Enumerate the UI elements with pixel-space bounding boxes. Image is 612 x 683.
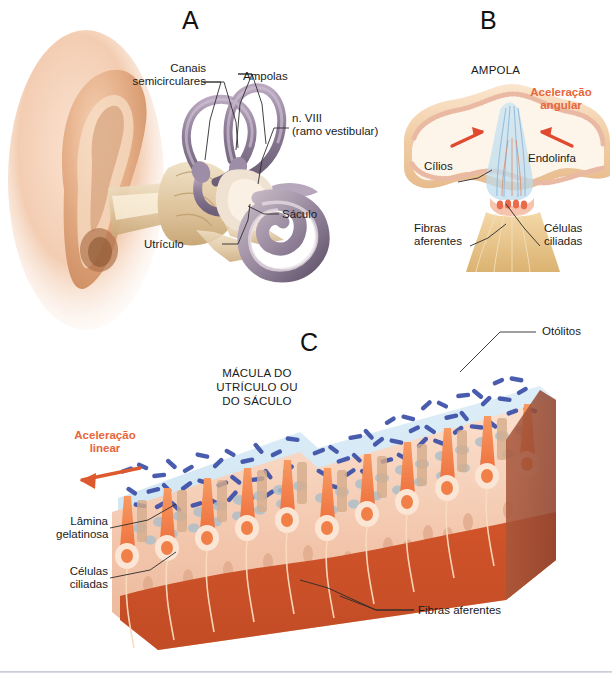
label-fibras-aferentes-c: Fibras aferentes (418, 604, 501, 617)
label-celulas-ciliadas-b: Células ciliadas (544, 222, 582, 248)
label-nervo-viii: n. VIII (ramo vestibular) (292, 112, 378, 138)
figure-canvas: A B C Canais semicirculares Ampolas n. V… (0, 0, 612, 683)
label-saculo: Sáculo (282, 208, 317, 221)
label-canais-semicirculares: Canais semicirculares (124, 62, 206, 88)
label-ampolas: Ampolas (243, 70, 288, 83)
label-otolitos: Otólitos (542, 325, 581, 338)
label-aceleracao-angular: Aceleração angular (522, 86, 600, 112)
label-aceleracao-linear: Aceleração linear (62, 429, 148, 455)
label-celulas-ciliadas-c: Células ciliadas (56, 565, 108, 591)
bottom-divider (0, 671, 612, 673)
heading-macula: MÁCULA DO UTRÍCULO OU DO SÁCULO (202, 366, 312, 408)
label-fibras-aferentes-b: Fibras aferentes (414, 222, 462, 248)
label-utriculo: Utrículo (144, 238, 184, 251)
panel-letter-b: B (480, 8, 497, 33)
panel-letter-c: C (300, 330, 318, 355)
panel-letter-a: A (182, 8, 199, 33)
heading-ampola: AMPOLA (471, 64, 520, 77)
label-cilios: Cílios (424, 160, 453, 173)
label-lamina-gelatinosa: Lâmina gelatinosa (56, 515, 108, 541)
panel-c-artwork (80, 332, 556, 650)
label-endolinfa: Endolinfa (528, 152, 576, 165)
